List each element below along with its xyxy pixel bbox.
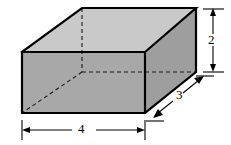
width-arrowhead-left bbox=[22, 127, 30, 133]
width-arrowhead-right bbox=[137, 127, 145, 133]
depth-dimension-label: 3 bbox=[176, 88, 183, 101]
height-arrowhead-down bbox=[210, 64, 216, 72]
prism-drawing bbox=[0, 0, 231, 145]
front-face bbox=[22, 52, 145, 113]
rectangular-prism-figure: 2 3 4 bbox=[0, 0, 231, 145]
depth-arrow-shaft-lower bbox=[158, 101, 173, 113]
prism-faces bbox=[22, 8, 196, 113]
height-dimension-label: 2 bbox=[208, 33, 215, 46]
width-dimension-label: 4 bbox=[78, 122, 85, 135]
depth-arrow-shaft-upper bbox=[183, 80, 199, 93]
